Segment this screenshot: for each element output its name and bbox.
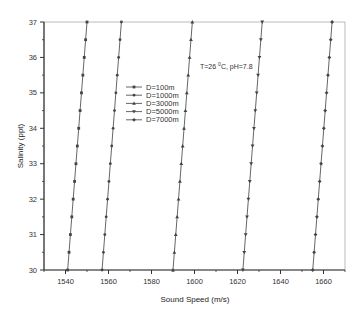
diamond-marker: [329, 38, 333, 42]
diamond-marker: [323, 109, 327, 113]
plot-border: [44, 22, 345, 270]
circle-marker: [109, 162, 112, 165]
triangle-down-marker: [242, 251, 246, 254]
y-axis: 3031323334353637: [29, 18, 44, 275]
circle-marker: [101, 269, 104, 272]
series-d-1000m: [101, 21, 123, 272]
series-d-3000m: [171, 20, 194, 271]
y-tick-label: 32: [29, 195, 37, 204]
circle-marker: [119, 38, 122, 41]
chart: 3031323334353637 15401560158016001620164…: [0, 0, 364, 311]
plot-frame: [44, 22, 345, 270]
diamond-marker: [319, 162, 323, 166]
triangle-down-marker: [255, 91, 259, 94]
square-marker: [80, 91, 83, 94]
square-marker: [133, 86, 136, 89]
triangle-up-marker: [181, 144, 185, 147]
triangle-down-marker: [252, 127, 256, 130]
diamond-marker: [321, 144, 325, 148]
triangle-up-marker: [184, 109, 188, 112]
triangle-down-marker: [253, 109, 257, 112]
y-tick-label: 37: [29, 18, 37, 27]
circle-marker: [110, 145, 113, 148]
x-tick-label: 1640: [272, 277, 289, 286]
triangle-up-marker: [188, 56, 192, 59]
legend-label: D=7000m: [146, 115, 179, 124]
triangle-down-marker: [247, 198, 251, 201]
square-marker: [86, 21, 89, 24]
x-tick-label: 1600: [186, 277, 203, 286]
square-marker: [77, 127, 80, 130]
triangle-down-marker: [259, 38, 263, 41]
x-axis: 1540156015801600162016401660: [44, 270, 345, 286]
diamond-marker: [330, 20, 334, 24]
triangle-up-marker: [182, 126, 186, 129]
diamond-marker: [314, 233, 318, 237]
circle-marker: [117, 56, 120, 59]
circle-marker: [114, 91, 117, 94]
series-d-7000m: [311, 20, 334, 272]
annotation-text: C, pH=7.8: [221, 63, 253, 71]
diamond-marker: [326, 73, 330, 77]
triangle-up-marker: [174, 233, 178, 236]
y-tick-label: 30: [29, 266, 37, 275]
triangle-up-marker: [178, 180, 182, 183]
triangle-up-marker: [172, 250, 176, 253]
square-marker: [83, 56, 86, 59]
triangle-down-marker: [256, 74, 260, 77]
square-marker: [73, 180, 76, 183]
triangle-down-marker: [249, 162, 253, 165]
y-tick-label: 34: [29, 124, 37, 133]
square-marker: [84, 38, 87, 41]
y-tick-label: 31: [29, 230, 37, 239]
circle-marker: [108, 180, 111, 183]
y-axis-title: Salinity (ppt): [16, 123, 25, 168]
triangle-down-marker: [244, 233, 248, 236]
legend: D=100mD=1000mD=3000mD=5000mD=7000m: [126, 83, 179, 125]
circle-marker: [112, 127, 115, 130]
triangle-up-marker: [189, 38, 193, 41]
diamond-marker: [327, 56, 331, 60]
square-marker: [76, 145, 79, 148]
triangle-down-marker: [251, 145, 255, 148]
circle-marker: [113, 109, 116, 112]
square-marker: [68, 251, 71, 254]
triangle-down-marker: [258, 56, 262, 59]
diamond-marker: [132, 118, 136, 122]
circle-marker: [106, 198, 109, 201]
triangle-down-marker: [248, 180, 252, 183]
x-tick-label: 1620: [229, 277, 246, 286]
circle-marker: [102, 251, 105, 254]
triangle-up-marker: [186, 73, 190, 76]
series-d-100m: [66, 21, 88, 272]
x-tick-label: 1580: [143, 277, 160, 286]
y-tick-label: 36: [29, 53, 37, 62]
square-marker: [79, 109, 82, 112]
y-tick-label: 33: [29, 159, 37, 168]
triangle-up-marker: [177, 197, 181, 200]
diamond-marker: [316, 197, 320, 201]
circle-marker: [133, 94, 136, 97]
diamond-marker: [318, 180, 322, 184]
circle-marker: [103, 233, 106, 236]
square-marker: [66, 269, 69, 272]
square-marker: [69, 233, 72, 236]
square-marker: [70, 215, 73, 218]
diamond-marker: [315, 215, 319, 219]
legend-item: D=7000m: [126, 115, 179, 124]
series-layer: [66, 20, 334, 272]
diamond-marker: [322, 126, 326, 130]
circle-marker: [116, 74, 119, 77]
circle-marker: [105, 215, 108, 218]
square-marker: [81, 74, 84, 77]
annotation: T=26 0C, pH=7.8: [200, 61, 253, 71]
triangle-up-marker: [179, 162, 183, 165]
triangle-up-marker: [185, 91, 189, 94]
x-axis-title: Sound Speed (m/s): [161, 295, 230, 304]
triangle-down-marker: [245, 215, 249, 218]
diamond-marker: [325, 91, 329, 95]
square-marker: [72, 198, 75, 201]
x-tick-label: 1560: [100, 277, 117, 286]
x-tick-label: 1540: [57, 277, 74, 286]
square-marker: [75, 162, 78, 165]
